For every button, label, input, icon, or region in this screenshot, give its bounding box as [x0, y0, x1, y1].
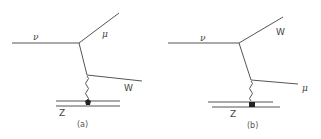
- outgoing-lower-line: [87, 75, 142, 81]
- diagram-a: ν μ W Z (a): [12, 13, 142, 129]
- photon-wavy-line: [86, 76, 89, 101]
- upper-label: μ: [102, 29, 108, 39]
- photon-wavy-line: [250, 81, 253, 101]
- vertex-blob: [249, 102, 255, 107]
- outgoing-lower-line: [251, 80, 298, 84]
- internal-propagator-line: [79, 43, 87, 75]
- target-label: Z: [230, 109, 236, 119]
- upper-label: W: [276, 27, 285, 37]
- target-label: Z: [59, 108, 65, 118]
- lower-label: W: [124, 83, 133, 93]
- vertex-blob: [85, 99, 91, 105]
- incoming-label: ν: [200, 33, 206, 43]
- caption-b: (b): [247, 121, 258, 130]
- feynman-diagrams: ν μ W Z (a) ν W μ Z (b): [0, 0, 321, 139]
- internal-propagator-line: [239, 43, 251, 80]
- lower-label: μ: [302, 83, 308, 93]
- incoming-label: ν: [33, 32, 39, 42]
- caption-a: (a): [77, 120, 88, 129]
- diagram-b: ν W μ Z (b): [168, 17, 308, 130]
- outgoing-upper-line: [79, 13, 119, 43]
